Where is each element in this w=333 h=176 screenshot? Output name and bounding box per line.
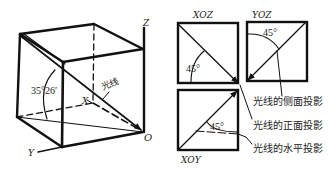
callout-side-projection: 光线的侧面投影 (253, 95, 323, 107)
hidden-edge (93, 24, 94, 103)
callout-front-projection: 光线的正面投影 (253, 119, 323, 131)
light-ray-label: 光线 (99, 75, 120, 92)
light-projection-front (178, 24, 238, 83)
projection-title-yoz: YOZ (252, 10, 272, 20)
light-ray-arrow (22, 37, 141, 130)
angle-label-front: 45° (186, 63, 200, 74)
y-axis-label: Y (28, 148, 35, 158)
figure-canvas: Z X Y O 35°26′ 光线 XOZ YOZ XOY 45° (0, 0, 333, 176)
projection-xoz (178, 23, 238, 83)
angle-label-horizontal: 45° (210, 121, 224, 132)
cube-edge (62, 132, 143, 147)
callout-leader-horizontal (238, 134, 252, 144)
angle-label-side: 45° (263, 27, 277, 38)
callout-horizontal-projection: 光线的水平投影 (253, 142, 323, 154)
callout-leader-side (277, 51, 282, 96)
z-axis-label: Z (142, 18, 150, 28)
cube-edge (62, 62, 63, 147)
cube-edge (20, 24, 94, 34)
y-axis (38, 147, 62, 152)
light-projection-horizontal (178, 91, 237, 150)
projection-title-xoy: XOY (180, 155, 202, 165)
projection-xoy (178, 90, 238, 150)
hidden-edge (93, 103, 140, 130)
projection-title-xoz: XOZ (192, 10, 214, 20)
angle-label: 35°26′ (31, 85, 57, 96)
light-label-leader (103, 92, 109, 99)
cube-edge (94, 24, 143, 49)
x-axis-label: X (81, 96, 89, 106)
cube-edge (63, 49, 143, 62)
origin-label: O (144, 132, 152, 143)
cube-edge (17, 34, 20, 117)
callout-leader-front (240, 85, 252, 119)
